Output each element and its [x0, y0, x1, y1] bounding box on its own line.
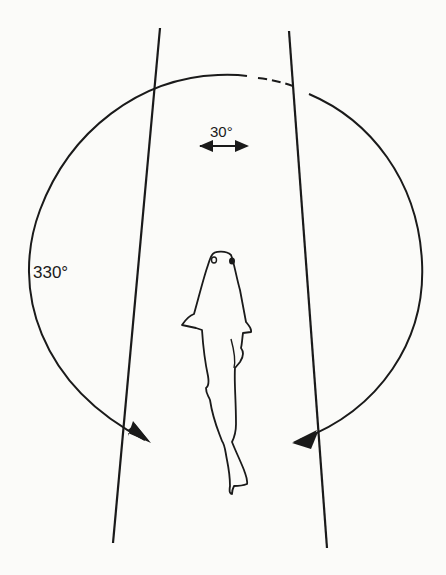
fish-icon	[182, 252, 251, 494]
binocular-angle-arrowhead-right	[235, 140, 249, 152]
fish-eye-right	[229, 258, 235, 265]
arrowhead-left-fill	[128, 421, 151, 443]
binocular-angle-label: 30°	[210, 124, 233, 139]
left-sight-line	[113, 28, 160, 543]
visual-field-angle-label: 330°	[33, 264, 68, 281]
right-sight-line	[289, 31, 327, 548]
visual-field-arc-right	[300, 94, 422, 440]
binocular-angle-arrowhead-left	[199, 140, 213, 152]
fish-vision-diagram	[0, 0, 446, 575]
arrowhead-right-fill	[292, 432, 318, 449]
